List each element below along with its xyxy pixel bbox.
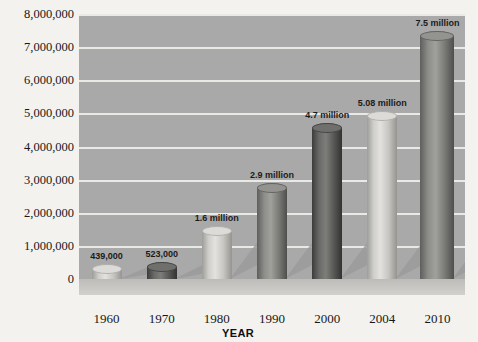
bar-1990[interactable]: 2.9 million	[257, 14, 287, 279]
bar-top-ellipse	[257, 183, 287, 193]
bar-cylinder: 2.9 million	[257, 183, 287, 279]
x-axis-tick-label: 2000	[297, 311, 357, 327]
bar-body	[312, 128, 342, 279]
bar-2010[interactable]: 7.5 million	[420, 14, 454, 279]
bar-body	[202, 231, 232, 279]
x-axis-tick-label: 1960	[77, 311, 137, 327]
bar-value-label: 2.9 million	[250, 170, 294, 180]
bar-cylinder: 523,000	[147, 262, 177, 279]
bar-2004[interactable]: 5.08 million	[367, 14, 397, 279]
bar-cylinder: 439,000	[92, 264, 122, 279]
y-axis-tick-label: 8,000,000	[0, 7, 74, 22]
bar-body	[420, 36, 454, 279]
bar-1960[interactable]: 439,000	[92, 14, 122, 279]
x-axis-tick-label: 1970	[132, 311, 192, 327]
y-axis: 01,000,0002,000,0003,000,0004,000,0005,0…	[0, 0, 74, 342]
chart-floor	[79, 279, 465, 295]
y-axis-tick-label: 6,000,000	[0, 73, 74, 88]
bar-cylinder: 4.7 million	[312, 123, 342, 279]
bar-1970[interactable]: 523,000	[147, 14, 177, 279]
bar-cylinder: 5.08 million	[367, 111, 397, 279]
bar-value-label: 4.7 million	[305, 110, 349, 120]
y-axis-tick-label: 1,000,000	[0, 238, 74, 253]
bar-body	[367, 116, 397, 279]
bar-value-label: 439,000	[90, 251, 123, 261]
bar-2000[interactable]: 4.7 million	[312, 14, 342, 279]
y-axis-tick-label: 7,000,000	[0, 40, 74, 55]
bar-value-label: 7.5 million	[415, 18, 459, 28]
bar-1980[interactable]: 1.6 million	[202, 14, 232, 279]
x-axis-title: YEAR	[222, 327, 254, 339]
bar-top-ellipse	[367, 111, 397, 121]
x-axis-tick-label: 1990	[242, 311, 302, 327]
bar-value-label: 1.6 million	[195, 213, 239, 223]
bar-value-label: 523,000	[145, 249, 178, 259]
bar-value-label: 5.08 million	[358, 98, 407, 108]
x-axis-tick-label: 2004	[352, 311, 412, 327]
y-axis-tick-label: 5,000,000	[0, 106, 74, 121]
bar-top-ellipse	[202, 226, 232, 236]
y-axis-tick-label: 4,000,000	[0, 139, 74, 154]
bar-top-ellipse	[147, 262, 177, 272]
bar-cylinder: 1.6 million	[202, 226, 232, 279]
bar-top-ellipse	[420, 31, 454, 41]
plot-area: 439,000523,0001.6 million2.9 million4.7 …	[79, 14, 465, 295]
y-axis-tick-label: 2,000,000	[0, 205, 74, 220]
y-axis-tick-label: 0	[0, 272, 74, 287]
bar-chart: 01,000,0002,000,0003,000,0004,000,0005,0…	[0, 0, 478, 342]
bar-cylinder: 7.5 million	[420, 31, 454, 279]
bar-body	[257, 188, 287, 279]
y-axis-tick-label: 3,000,000	[0, 172, 74, 187]
x-axis-tick-label: 2010	[407, 311, 467, 327]
x-axis-tick-label: 1980	[187, 311, 247, 327]
